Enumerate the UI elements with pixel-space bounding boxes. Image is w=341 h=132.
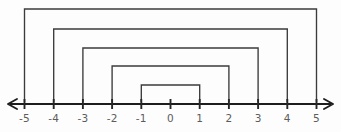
tick-label-neg5: -5 xyxy=(19,112,30,124)
tick-label-4: 4 xyxy=(284,112,291,124)
tick-label-neg1: -1 xyxy=(136,112,147,124)
tick-label-neg2: -2 xyxy=(107,112,118,124)
tick-label-neg4: -4 xyxy=(48,112,59,124)
bracket-2 xyxy=(112,66,229,102)
bracket-3 xyxy=(83,48,258,102)
bracket-group xyxy=(25,9,317,102)
number-line-diagram: -5-4-3-2-1012345 xyxy=(0,0,341,132)
tick-label-1: 1 xyxy=(196,112,203,124)
number-line-figure: -5-4-3-2-1012345 xyxy=(0,0,341,132)
tick-label-0: 0 xyxy=(167,112,174,124)
tick-label-5: 5 xyxy=(313,112,320,124)
tick-label-3: 3 xyxy=(255,112,262,124)
tick-label-neg3: -3 xyxy=(77,112,88,124)
tick-label-group: -5-4-3-2-1012345 xyxy=(19,112,320,124)
tick-label-2: 2 xyxy=(225,112,232,124)
bracket-5 xyxy=(25,9,317,102)
